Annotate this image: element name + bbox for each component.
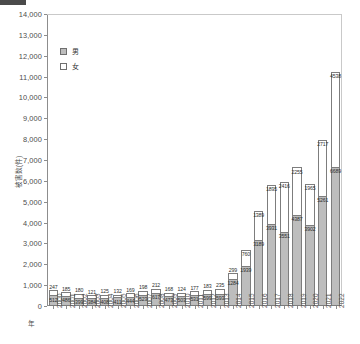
bar-value-label-female: 760 (242, 252, 250, 257)
bar-value-label-female: 2416 (279, 184, 290, 189)
x-tick-mark (246, 306, 247, 309)
x-tick-label: 2007 (146, 293, 153, 308)
y-tick-label: 10,000 (19, 93, 47, 102)
legend-swatch-male-icon (60, 48, 67, 55)
y-tick-mark (44, 306, 47, 307)
x-tick-label: 2005 (120, 293, 127, 308)
plot-area: 01,0002,0003,0004,0005,0006,0007,0008,00… (47, 14, 342, 306)
bar-segment-male: 6689 (331, 167, 340, 307)
bar-segment-female: 4538 (331, 72, 340, 167)
y-tick-label: 12,000 (19, 51, 47, 60)
x-tick-label: 2014 (235, 293, 242, 308)
bar-value-label-female: 212 (152, 283, 160, 288)
x-tick-mark (195, 306, 196, 309)
bar-value-label-female: 4538 (330, 74, 341, 79)
legend-label-female: 女 (72, 61, 79, 71)
bar-value-label-male: 3931 (266, 226, 277, 231)
x-tick-label: 2002 (81, 293, 88, 308)
legend-label-male: 男 (72, 46, 79, 56)
bar-segment-female: 1389 (254, 211, 263, 240)
x-tick-label: 2015 (248, 293, 255, 308)
bar-stack[interactable]: 22554387 (292, 167, 301, 306)
bar-segment-female: 2416 (280, 182, 289, 232)
x-tick-mark (310, 306, 311, 309)
bar-value-label-female: 198 (139, 285, 147, 290)
x-tick-mark (233, 306, 234, 309)
x-tick-label: 2020 (312, 293, 319, 308)
bar-value-label-male: 3189 (253, 242, 264, 247)
y-tick-label: 14,000 (19, 10, 47, 19)
x-tick-mark (118, 306, 119, 309)
bar-segment-female: 1965 (305, 184, 314, 225)
y-axis-title: 被害数(件) (13, 156, 23, 188)
corner-mark (0, 0, 26, 5)
x-tick-mark (66, 306, 67, 309)
x-tick-label: 2004 (107, 293, 114, 308)
x-tick-label: 2021 (325, 293, 332, 308)
x-tick-label: 2003 (94, 293, 101, 308)
x-tick-mark (284, 306, 285, 309)
bar-segment-female: 2717 (318, 140, 327, 197)
x-tick-mark (79, 306, 80, 309)
x-tick-mark (92, 306, 93, 309)
bar-value-label-male: 3551 (279, 234, 290, 239)
x-tick-mark (323, 306, 324, 309)
x-tick-label: 2009 (171, 293, 178, 308)
bar-segment-female: 760 (241, 250, 250, 266)
bar-group: 2475121854861803991213841254081324111694… (47, 14, 342, 306)
x-tick-label: 2016 (261, 293, 268, 308)
x-tick-mark (169, 306, 170, 309)
legend-item-male[interactable]: 男 (60, 46, 79, 56)
stacked-bar-chart: 被害数(件) 年 01,0002,0003,0004,0005,0006,000… (0, 0, 360, 344)
x-tick-label: 2008 (158, 293, 165, 308)
bar-value-label-female: 299 (229, 268, 237, 273)
y-tick-label: 13,000 (19, 30, 47, 39)
bar-segment-female: 1895 (267, 185, 276, 225)
x-tick-label: 2019 (300, 293, 307, 308)
x-tick-label: 2017 (274, 293, 281, 308)
x-tick-label: 2018 (287, 293, 294, 308)
bar-value-label-male: 4387 (292, 217, 303, 222)
bar-value-label-male: 1939 (240, 268, 251, 273)
legend-item-female[interactable]: 女 (60, 61, 79, 71)
bar-value-label-female: 183 (203, 284, 211, 289)
legend-swatch-female-icon (60, 63, 67, 70)
bar-value-label-male: 3902 (304, 227, 315, 232)
bar-stack[interactable]: 18953931 (267, 185, 276, 307)
bar-segment-male: 5261 (318, 196, 327, 306)
x-tick-mark (156, 306, 157, 309)
x-tick-mark (105, 306, 106, 309)
x-tick-label: 2001 (69, 293, 76, 308)
bar-value-label-female: 1965 (304, 186, 315, 191)
bar-stack[interactable]: 27175261 (318, 140, 327, 306)
bar-stack[interactable]: 45386689 (331, 72, 340, 306)
x-tick-mark (182, 306, 183, 309)
bar-value-label-female: 1895 (266, 187, 277, 192)
bar-value-label-female: 1389 (253, 213, 264, 218)
chart-legend: 男 女 (60, 46, 79, 76)
x-axis-title: 年 (28, 318, 35, 328)
x-tick-mark (53, 306, 54, 309)
x-tick-mark (259, 306, 260, 309)
bar-value-label-female: 2717 (317, 142, 328, 147)
x-tick-label: 2013 (223, 293, 230, 308)
x-tick-label: 2022 (338, 293, 345, 308)
bar-value-label-female: 177 (190, 286, 198, 291)
x-tick-mark (220, 306, 221, 309)
x-tick-label: 2011 (197, 294, 204, 308)
bar-stack[interactable]: 13893189 (254, 211, 263, 306)
x-tick-mark (143, 306, 144, 309)
bar-value-label-female: 168 (165, 287, 173, 292)
x-tick-mark (336, 306, 337, 309)
bar-stack[interactable]: 24163551 (280, 182, 289, 306)
x-tick-label: 2012 (210, 293, 217, 308)
y-tick-label: 11,000 (19, 72, 47, 81)
bar-stack[interactable]: 19653902 (305, 184, 314, 306)
bar-value-label-male: 1284 (227, 281, 238, 286)
x-tick-mark (271, 306, 272, 309)
bar-value-label-female: 185 (62, 287, 70, 292)
bar-value-label-female: 124 (178, 287, 186, 292)
x-tick-label: 2010 (184, 293, 191, 308)
x-tick-label: 2000 (56, 293, 63, 308)
bar-value-label-female: 235 (216, 283, 224, 288)
